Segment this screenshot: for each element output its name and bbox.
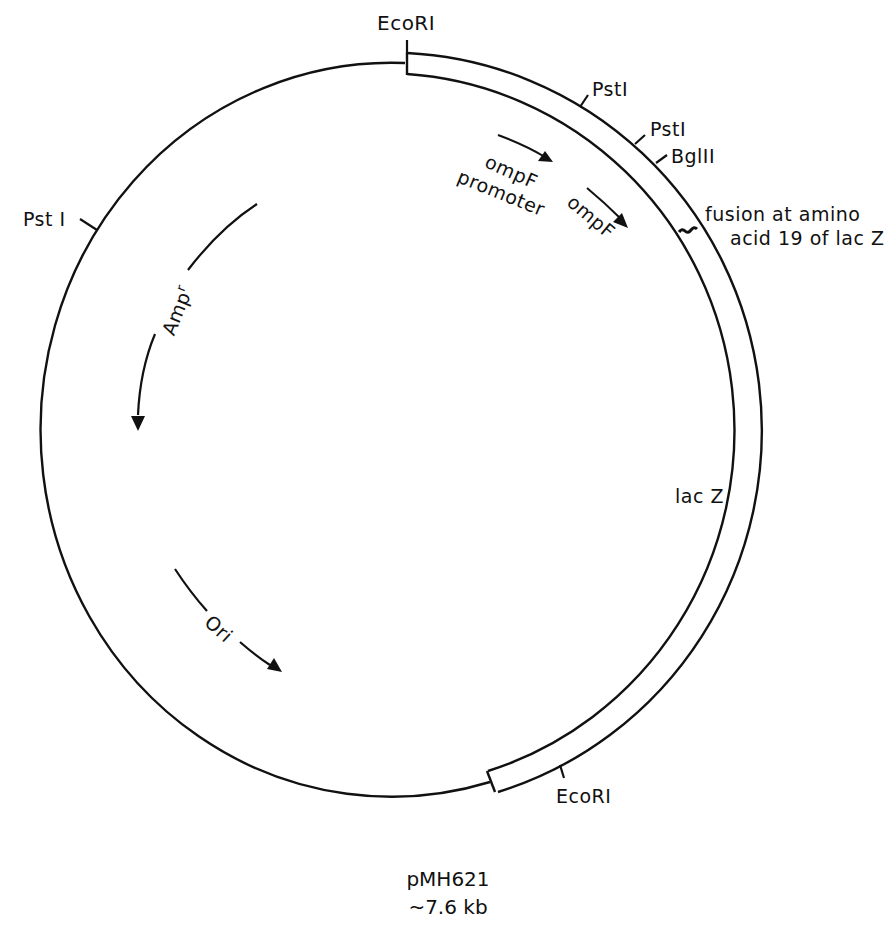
ori-arrow-lower — [240, 642, 270, 665]
lacz-label: lac Z — [675, 487, 724, 506]
plasmid-name: pMH621 — [0, 865, 896, 893]
psti-1-tick — [580, 95, 588, 107]
psti-1-label: PstI — [592, 80, 628, 99]
ecori-top-label: EcoRI — [377, 13, 435, 33]
psti-2-label: PstI — [650, 120, 686, 139]
fusion-junction-icon — [679, 228, 697, 233]
plasmid-size: ~7.6 kb — [0, 893, 896, 921]
ampr-arrow-upper — [188, 204, 257, 270]
ampr-arrowhead-icon — [131, 416, 145, 431]
plasmid-map — [0, 0, 896, 930]
ampr-arrow-lower — [138, 334, 155, 415]
ecori-bottom-tick — [560, 765, 564, 778]
ompf-promoter-arrow — [498, 135, 545, 157]
bglii-tick — [656, 155, 667, 163]
bglii-label: BglII — [671, 147, 715, 166]
fusion-label-line1: fusion at amino — [705, 205, 860, 224]
fusion-label-line2: acid 19 of lac Z — [730, 229, 884, 248]
ompf-promoter-arrowhead-icon — [538, 151, 553, 162]
psti-left-tick — [80, 219, 97, 230]
psti-2-tick — [635, 135, 645, 144]
ecori-bottom-label: EcoRI — [556, 787, 611, 806]
psti-left-label: Pst I — [23, 210, 66, 229]
plasmid-backbone — [41, 63, 490, 797]
ori-arrow-upper — [175, 569, 207, 611]
